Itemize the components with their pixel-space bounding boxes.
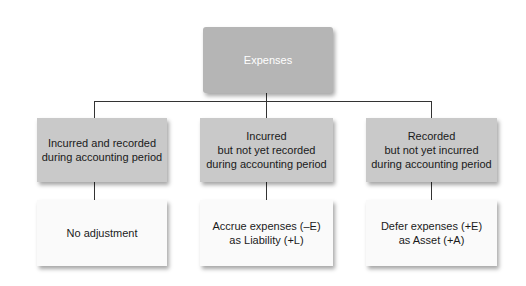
outcome-node-accrue-expenses: Accrue expenses (–E) as Liability (+L) [200, 200, 333, 266]
outcome-node-no-adjustment: No adjustment [37, 200, 167, 266]
root-node-expenses: Expenses [203, 27, 333, 93]
outcome-connector-right [431, 182, 432, 200]
branch-connector-middle [266, 101, 267, 118]
root-stem-connector [266, 93, 267, 101]
category-node-label: Incurred and recorded during accounting … [42, 136, 162, 164]
branch-connector-right [431, 101, 432, 118]
branch-connector-left [94, 101, 95, 118]
category-node-incurred-and-recorded: Incurred and recorded during accounting … [37, 118, 167, 182]
category-node-incurred-not-recorded: Incurred but not yet recorded during acc… [200, 118, 333, 182]
category-node-recorded-not-incurred: Recorded but not yet incurred during acc… [366, 118, 497, 182]
outcome-node-label: Accrue expenses (–E) as Liability (+L) [212, 219, 320, 247]
root-node-label: Expenses [244, 53, 292, 67]
outcome-node-defer-expenses: Defer expenses (+E) as Asset (+A) [366, 200, 497, 266]
outcome-node-label: No adjustment [67, 226, 138, 240]
outcome-connector-middle [266, 182, 267, 200]
horizontal-connector [94, 101, 432, 102]
category-node-label: Recorded but not yet incurred during acc… [371, 129, 491, 171]
category-node-label: Incurred but not yet recorded during acc… [206, 129, 326, 171]
outcome-connector-left [94, 182, 95, 200]
outcome-node-label: Defer expenses (+E) as Asset (+A) [381, 219, 482, 247]
